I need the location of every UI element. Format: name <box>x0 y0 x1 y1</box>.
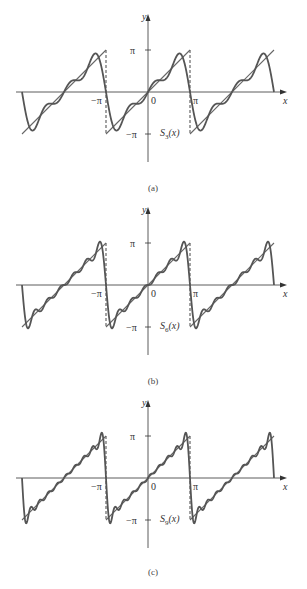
origin-label: 0 <box>151 288 156 299</box>
x-tick-label-neg-pi: −π <box>91 481 102 492</box>
curve-label: S9(x) <box>160 513 180 527</box>
x-axis-label: x <box>282 288 288 299</box>
curve-label: S6(x) <box>160 320 180 334</box>
x-tick-label-neg-pi: −π <box>91 95 102 106</box>
fourier-series-figure: yx0π−π−ππS3(x)(a)yx0π−π−ππS6(x)(b)yx0π−π… <box>0 0 307 589</box>
y-tick-label-neg-pi: −π <box>126 322 137 333</box>
y-tick-label-neg-pi: −π <box>126 129 137 140</box>
x-axis-label: x <box>282 481 288 492</box>
y-axis-label: y <box>141 397 147 408</box>
y-tick-label-pi: π <box>130 431 135 442</box>
y-tick-label-pi: π <box>130 45 135 56</box>
x-axis-arrow-icon <box>280 90 287 95</box>
panel-caption: (c) <box>148 567 158 577</box>
origin-label: 0 <box>151 95 156 106</box>
y-tick-label-neg-pi: −π <box>126 515 137 526</box>
x-tick-label-neg-pi: −π <box>91 288 102 299</box>
y-axis-label: y <box>141 11 147 22</box>
curve-label-arg: (x) <box>169 513 181 525</box>
panel-c: yx0π−π−ππS9(x)(c) <box>16 397 288 577</box>
x-tick-label-pi: π <box>193 288 198 299</box>
x-axis-arrow-icon <box>280 476 287 481</box>
origin-label: 0 <box>151 481 156 492</box>
x-axis-label: x <box>282 95 288 106</box>
curve-label: S3(x) <box>160 127 180 141</box>
y-tick-label-pi: π <box>130 238 135 249</box>
x-tick-label-pi: π <box>193 481 198 492</box>
x-axis-arrow-icon <box>280 283 287 288</box>
curve-label-arg: (x) <box>169 127 181 139</box>
panel-b: yx0π−π−ππS6(x)(b) <box>16 204 288 386</box>
x-tick-label-pi: π <box>193 95 198 106</box>
panel-caption: (a) <box>148 183 158 193</box>
panel-a: yx0π−π−ππS3(x)(a) <box>16 11 288 193</box>
curve-label-arg: (x) <box>169 320 181 332</box>
panel-caption: (b) <box>148 376 159 386</box>
y-axis-label: y <box>141 204 147 215</box>
